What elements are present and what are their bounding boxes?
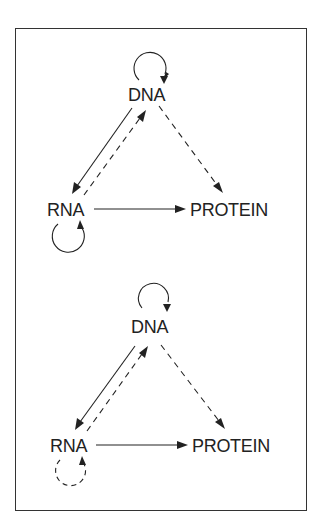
- dna-label: DNA: [131, 317, 168, 337]
- protein-label: PROTEIN: [192, 436, 270, 456]
- rna-label: RNA: [47, 200, 84, 220]
- rna-self-loop-dashed-arrow: [56, 456, 86, 486]
- dna-to-rna-arrow: [72, 108, 132, 194]
- rna-to-protein-arrow: [96, 441, 188, 449]
- dna-self-loop-arrow: [138, 283, 171, 312]
- rna-self-loop-arrow: [52, 220, 84, 252]
- top-diagram: DNA RNA PROTEIN: [47, 52, 268, 252]
- rna-to-dna-dashed-arrow: [87, 346, 148, 431]
- bottom-diagram: DNA RNA PROTEIN: [50, 283, 270, 485]
- rna-label: RNA: [50, 436, 87, 456]
- central-dogma-figure: DNA RNA PROTEIN: [0, 0, 321, 531]
- rna-to-dna-dashed-arrow: [84, 110, 146, 195]
- rna-to-protein-arrow: [94, 205, 186, 213]
- protein-label: PROTEIN: [190, 200, 268, 220]
- dna-label: DNA: [128, 85, 165, 105]
- dna-self-loop-arrow: [134, 52, 169, 84]
- dna-to-rna-arrow: [75, 346, 135, 430]
- dna-to-protein-dashed-arrow: [161, 345, 225, 429]
- dna-to-protein-dashed-arrow: [159, 106, 223, 193]
